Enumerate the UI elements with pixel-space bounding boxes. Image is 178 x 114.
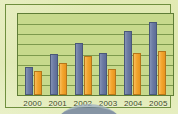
- bar-series-orange-2004: [133, 53, 141, 95]
- bar-series-orange-2000: [34, 71, 42, 95]
- bar-group-2000: [25, 14, 42, 95]
- bar-groups: [18, 14, 173, 95]
- bar-series-blue-2005: [149, 22, 157, 95]
- x-tick-2005: 2005: [149, 99, 168, 108]
- bar-group-2004: [124, 14, 141, 95]
- bar-group-2002: [75, 14, 92, 95]
- bar-series-blue-2002: [75, 43, 83, 95]
- bar-series-orange-2001: [59, 63, 67, 95]
- partial-graphic-cap: [60, 107, 118, 114]
- bar-group-2005: [149, 14, 166, 95]
- x-tick-2000: 2000: [23, 99, 42, 108]
- chart-frame: 200020012002200320042005: [5, 4, 171, 108]
- bar-series-blue-2000: [25, 67, 33, 95]
- bar-series-orange-2002: [84, 56, 92, 96]
- plot-area: [17, 13, 174, 96]
- bar-series-orange-2003: [108, 69, 116, 95]
- bar-group-2001: [50, 14, 67, 95]
- x-tick-2004: 2004: [124, 99, 143, 108]
- x-tick-2001: 2001: [48, 99, 67, 108]
- bar-series-orange-2005: [158, 51, 166, 95]
- bar-series-blue-2001: [50, 54, 58, 95]
- bar-group-2003: [99, 14, 116, 95]
- bar-series-blue-2004: [124, 31, 132, 95]
- bar-series-blue-2003: [99, 53, 107, 95]
